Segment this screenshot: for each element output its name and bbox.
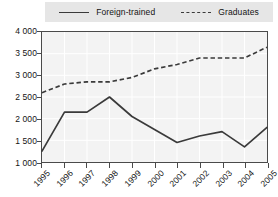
chart-container: Foreign-trained Graduates 1 0001 5002 00… — [0, 0, 278, 197]
y-axis-tickmark — [37, 141, 41, 142]
y-axis-tick-label: 4 000 — [15, 26, 37, 36]
y-axis-tick-label: 2 500 — [15, 92, 37, 102]
x-axis-tick-label: 2002 — [190, 168, 211, 189]
x-axis-labels: 1995199619971998199920002001200220032004… — [41, 168, 268, 196]
chart-legend: Foreign-trained Graduates — [45, 2, 273, 22]
x-axis-tick-label: 2000 — [145, 168, 166, 189]
x-axis-tickmark — [268, 163, 269, 168]
y-axis-tickmark — [37, 53, 41, 54]
x-axis-tick-label: 2004 — [236, 168, 257, 189]
x-axis-tick-label: 1995 — [31, 168, 52, 189]
legend-swatch-solid-icon — [59, 12, 89, 13]
legend-swatch-dashed-icon — [181, 12, 211, 13]
y-axis-tick-label: 3 500 — [15, 48, 37, 58]
x-axis-tick-label: 2003 — [213, 168, 234, 189]
y-axis-labels: 1 0001 5002 0002 5003 0003 5004 000 — [0, 31, 37, 163]
legend-label-graduates: Graduates — [218, 7, 259, 17]
series-line-foreign-trained — [42, 97, 267, 151]
y-axis-tick-label: 2 000 — [15, 114, 37, 124]
series-line-graduates — [42, 47, 267, 93]
y-axis-tickmark — [37, 31, 41, 32]
y-axis-tick-label: 1 500 — [15, 136, 37, 146]
x-axis-tick-label: 1999 — [122, 168, 143, 189]
y-axis-tickmark — [37, 119, 41, 120]
x-axis-tick-label: 1998 — [99, 168, 120, 189]
x-axis-tick-label: 2001 — [168, 168, 189, 189]
x-axis-tick-label: 1996 — [54, 168, 75, 189]
legend-item-graduates: Graduates — [181, 7, 259, 17]
legend-item-foreign-trained: Foreign-trained — [59, 7, 155, 17]
y-axis-tick-label: 3 000 — [15, 70, 37, 80]
legend-label-foreign-trained: Foreign-trained — [96, 7, 155, 17]
series-layer — [42, 32, 267, 162]
x-axis-tick-label: 2005 — [258, 168, 278, 189]
plot-area — [41, 31, 268, 163]
y-axis-tickmark — [37, 163, 41, 164]
x-axis-tick-label: 1997 — [77, 168, 98, 189]
y-axis-tickmark — [37, 97, 41, 98]
y-axis-tickmark — [37, 75, 41, 76]
y-axis-tick-label: 1 000 — [15, 158, 37, 168]
